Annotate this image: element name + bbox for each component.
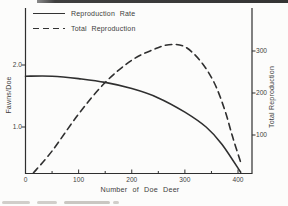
dashed-line-sample-icon xyxy=(33,28,65,30)
left-tick-label: 2.0 xyxy=(6,62,22,69)
x-tick-label: 100 xyxy=(73,177,84,184)
x-axis-label: Number of Doe Deer xyxy=(101,185,180,194)
legend-label: Reproduction Rate xyxy=(71,10,135,17)
x-tick-label: 0 xyxy=(24,177,28,184)
figure-scan: Reproduction Rate Total Reproduction Faw… xyxy=(0,0,288,206)
y-axis-label-left: Fawns/Doe xyxy=(5,76,12,113)
legend-item-total-reproduction: Total Reproduction xyxy=(33,23,135,34)
cutoff-caption-fragment xyxy=(0,201,288,206)
right-tick-label: 300 xyxy=(256,48,267,55)
right-tick-label: 100 xyxy=(256,132,267,139)
x-tick-label: 300 xyxy=(179,177,190,184)
legend-label: Total Reproduction xyxy=(71,25,135,32)
solid-line-sample-icon xyxy=(33,13,65,14)
x-tick-label: 400 xyxy=(232,177,243,184)
left-tick-label: 1.0 xyxy=(6,124,22,131)
legend-item-reproduction-rate: Reproduction Rate xyxy=(33,8,135,19)
legend: Reproduction Rate Total Reproduction xyxy=(33,8,135,34)
right-tick-label: 200 xyxy=(256,90,267,97)
y-axis-label-right: Total Reproduction xyxy=(268,66,275,128)
x-tick-label: 200 xyxy=(126,177,137,184)
